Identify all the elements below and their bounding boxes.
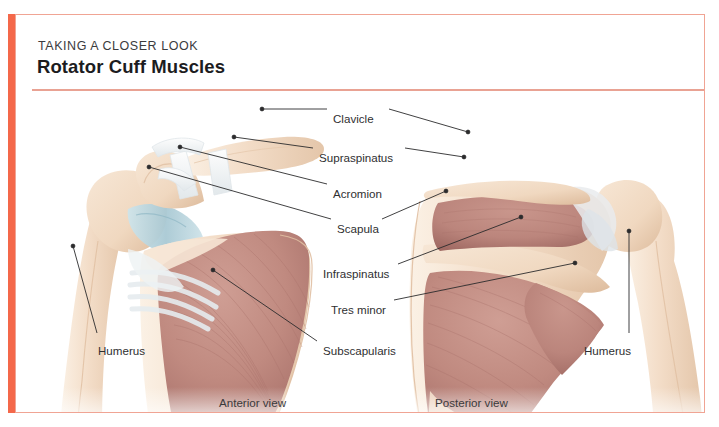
anterior-view-figure — [60, 137, 324, 413]
label-scapula: Scapula — [337, 223, 379, 235]
label-clavicle: Clavicle — [333, 113, 374, 125]
label-infraspinatus: Infraspinatus — [323, 268, 389, 280]
label-humerus-right: Humerus — [584, 345, 631, 357]
label-subscapularis: Subscapularis — [323, 345, 396, 357]
screenshot-root: TAKING A CLOSER LOOK Rotator Cuff Muscle… — [0, 0, 719, 427]
label-teres-minor: Tres minor — [331, 304, 386, 316]
bottom-fade — [32, 387, 705, 413]
anatomy-illustration — [32, 91, 705, 413]
posterior-view-figure — [409, 180, 702, 413]
label-humerus-left: Humerus — [98, 345, 145, 357]
caption-anterior-view: Anterior view — [219, 397, 286, 409]
label-acromion: Acromion — [333, 188, 382, 200]
anatomy-figure-area — [32, 91, 705, 413]
card-kicker: TAKING A CLOSER LOOK — [38, 39, 198, 53]
caption-posterior-view: Posterior view — [435, 397, 508, 409]
info-card: TAKING A CLOSER LOOK Rotator Cuff Muscle… — [15, 14, 705, 413]
humerus-bone-anterior — [60, 221, 124, 413]
label-supraspinatus: Supraspinatus — [319, 152, 393, 164]
page-title: Rotator Cuff Muscles — [37, 56, 225, 78]
